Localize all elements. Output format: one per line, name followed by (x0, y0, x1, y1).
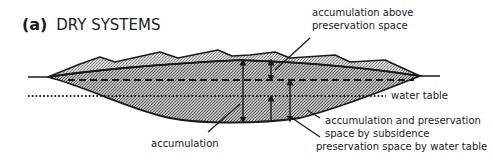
label-accumulation-above-2: preservation space (312, 20, 408, 31)
figure-title: (a) DRY SYSTEMS (22, 15, 160, 34)
title-text: DRY SYSTEMS (56, 16, 160, 34)
label-subsidence-1: accumulation and preservation (325, 115, 481, 126)
leader-water-table-space (292, 118, 320, 137)
label-accumulation-above-1: accumulation above (312, 7, 413, 18)
label-water-table-space: preservation space by water table (316, 141, 487, 152)
panel-label: (a) (22, 15, 47, 34)
label-accumulation: accumulation (151, 138, 219, 149)
label-subsidence-2: space by subsidence (325, 128, 429, 139)
label-water-table: water table (391, 90, 448, 101)
dry-systems-diagram: (a) DRY SYSTEMS accumulation above prese… (0, 0, 493, 163)
